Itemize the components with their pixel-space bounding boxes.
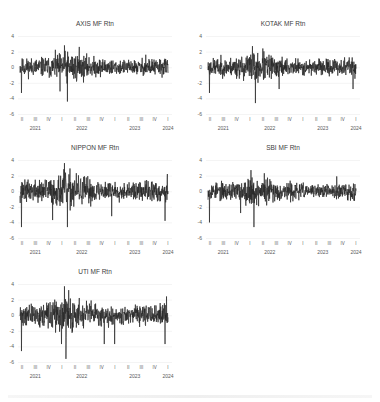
chart-panel-nippon: NIPPON MF Rtn420-2-4-6IIIIIIVIIIIIIIVIII… xyxy=(0,144,190,272)
chart-panel-sbi: SBI MF Rtn420-2-4-6IIIIIIVIIIIIIIVIIIIII… xyxy=(188,144,378,272)
chart-panel-kotak: KOTAK MF Rtn420-2-4-6IIIIIIVIIIIIIIVIIII… xyxy=(188,20,378,148)
chart-panel-axis: AXIS MF Rtn420-2-4-6IIIIIIVIIIIIIIVIIIII… xyxy=(0,20,190,148)
returns-line xyxy=(208,46,356,103)
line-plot xyxy=(0,144,190,272)
returns-line xyxy=(20,286,168,359)
line-plot xyxy=(188,20,378,148)
chart-panel-uti: UTI MF Rtn420-2-4-6IIIIIIVIIIIIIIVIIIIII… xyxy=(0,268,190,396)
line-plot xyxy=(188,144,378,272)
line-plot xyxy=(0,20,190,148)
returns-line xyxy=(208,170,356,227)
caption-band xyxy=(8,395,372,398)
line-plot xyxy=(0,268,190,396)
returns-line xyxy=(20,163,168,227)
returns-line xyxy=(20,45,168,101)
